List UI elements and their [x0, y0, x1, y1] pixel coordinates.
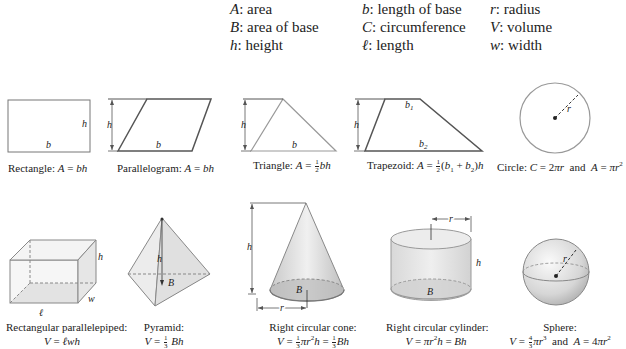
cylinder-label-r: r — [449, 213, 453, 224]
parallelepiped-label-h: h — [98, 251, 103, 262]
legend-meaning: area — [247, 1, 272, 17]
parallelogram-label-b: b — [156, 139, 161, 150]
legend-column-3: r: radius V: volume w: width — [490, 0, 552, 54]
pyramid-label-h: h — [157, 253, 162, 264]
caption-name: Triangle: — [253, 159, 293, 171]
parallelepiped-label-w: w — [88, 293, 95, 304]
legend-symbol: b — [362, 1, 370, 17]
trapezoid-caption: Trapezoid: A = 12(b1 + b2)h — [367, 158, 484, 174]
sphere-label-r: r — [563, 253, 567, 264]
triangle-label-b: b — [292, 139, 297, 150]
caption-name: Right circular cylinder: — [386, 320, 486, 334]
legend-symbol: h — [230, 37, 238, 53]
trapezoid-label-h: h — [354, 119, 359, 130]
legend-meaning: height — [245, 37, 283, 53]
caption-name: Rectangular parallelepiped: — [6, 320, 118, 334]
shapes-3d-figures: h w ℓ h B h B r — [0, 195, 626, 325]
cylinder-label-h: h — [476, 257, 481, 268]
cone-label-r: r — [280, 302, 284, 313]
caption-name: Parallelogram: — [117, 162, 182, 174]
legend-symbol: r — [490, 1, 496, 17]
triangle-label-h: h — [241, 119, 246, 130]
parallelogram-label-h: h — [107, 119, 112, 130]
cylinder-caption: Right circular cylinder: V = πr2h = Bh — [386, 320, 486, 348]
caption-name: Circle: — [497, 161, 527, 173]
rectangle-label-b: b — [46, 139, 51, 150]
legend-symbol: ℓ — [362, 37, 368, 53]
circle-label-r: r — [567, 103, 571, 114]
rectangle-label-h: h — [82, 118, 87, 129]
pyramid-label-B: B — [168, 277, 174, 288]
legend-symbol: B — [230, 19, 239, 35]
circle-figure — [520, 83, 590, 153]
parallelepiped-caption: Rectangular parallelepiped: V = ℓwh — [6, 320, 118, 348]
triangle-figure — [241, 99, 336, 151]
sphere-caption: Sphere: V = 43πr3 and A = 4πr2 — [505, 320, 615, 349]
parallelepiped-label-l: ℓ — [39, 307, 43, 318]
pyramid-figure — [128, 218, 210, 307]
legend-column-2: b: length of base C: circumference ℓ: le… — [362, 0, 466, 54]
sphere-figure — [523, 239, 589, 305]
parallelogram-caption: Parallelogram: A = bh — [117, 161, 214, 175]
legend-meaning: volume — [507, 19, 552, 35]
legend-meaning: length — [376, 37, 414, 53]
trapezoid-label-b2: b2 — [419, 138, 428, 151]
legend-meaning: area of base — [247, 19, 319, 35]
cone-label-h: h — [247, 241, 252, 252]
parallelepiped-figure — [10, 240, 96, 303]
triangle-caption: Triangle: A = 12bh — [253, 158, 331, 174]
caption-name: Rectangle: — [8, 162, 55, 174]
legend-symbol: A — [230, 1, 239, 17]
caption-name: Trapezoid: — [367, 159, 414, 171]
circle-caption: Circle: C = 2πr and A = πr2 — [497, 160, 623, 174]
caption-name: Sphere: — [505, 320, 615, 334]
trapezoid-label-b1: b1 — [405, 99, 414, 112]
pyramid-caption: Pyramid: V = 13 Bh — [132, 320, 196, 349]
legend-column-1: A: area B: area of base h: height — [230, 0, 319, 54]
legend-meaning: length of base — [377, 1, 461, 17]
cone-label-B: B — [296, 284, 302, 295]
caption-name: Right circular cone: — [258, 320, 368, 334]
cone-caption: Right circular cone: V = 13πr2h = 13Bh — [258, 320, 368, 349]
rectangle-caption: Rectangle: A = bh — [8, 161, 87, 175]
trapezoid-figure — [354, 99, 482, 151]
caption-name: Pyramid: — [132, 320, 196, 334]
cylinder-label-B: B — [427, 286, 433, 297]
legend-symbol: C — [362, 19, 372, 35]
legend-meaning: width — [508, 37, 542, 53]
legend-symbol: w — [490, 37, 500, 53]
legend-meaning: circumference — [380, 19, 466, 35]
legend-meaning: radius — [504, 1, 541, 17]
legend-symbol: V — [490, 19, 499, 35]
